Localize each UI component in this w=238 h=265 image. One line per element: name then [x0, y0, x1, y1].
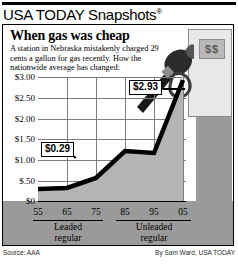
group-label-unleaded-line2: regular [136, 233, 172, 244]
masthead-rule [2, 2, 236, 5]
xtick-label-5: 05 [178, 207, 188, 217]
ytick-label-1: $2.50 [15, 93, 35, 103]
xtick-label-3: 85 [120, 207, 130, 217]
ytick-label-0: $3.00 [15, 72, 35, 82]
callout-low: $0.29 [41, 142, 74, 157]
price-line-series [38, 77, 186, 201]
xtick-label-0: 55 [33, 207, 43, 217]
chart-subtitle: A station in Nebraska mistakenly charged… [10, 44, 162, 73]
source-note: Source: AAA [3, 249, 40, 256]
chart-panel: $$ When gas was cheap A station in Nebra… [2, 24, 234, 246]
page-title: When gas was cheap [10, 28, 130, 44]
ytick-label-4: $1.00 [15, 155, 35, 165]
group-label-leaded-line1: Leaded [54, 222, 82, 233]
x-axis-labels: 55 65 75 85 95 05 [3, 207, 234, 219]
credit-note: By Sam Ward, USA TODAY [155, 249, 235, 256]
x-axis-baseline [38, 201, 186, 202]
ytick-label-5: $.50 [19, 176, 35, 186]
xtick-label-2: 75 [91, 207, 101, 217]
group-label-unleaded-line1: Unleaded [136, 222, 172, 233]
ytick-label-2: $2.00 [15, 114, 35, 124]
usa-today-snapshot: USA TODAY Snapshots® $$ When gas was che… [0, 0, 238, 265]
callout-high: $2.93 [129, 80, 162, 95]
pump-display: $$ [199, 39, 225, 59]
group-label-leaded: Leaded regular [54, 222, 82, 243]
ytick-label-3: $1.50 [15, 134, 35, 144]
xtick-label-1: 65 [62, 207, 72, 217]
plot-area: $3.00 $2.50 $2.00 $1.50 $1.00 $.50 $0 [38, 77, 186, 201]
pump-column [196, 117, 232, 221]
masthead-brand: USA TODAY Snapshots [3, 6, 156, 23]
group-label-unleaded: Unleaded regular [136, 222, 172, 243]
group-rule-leaded [33, 220, 103, 221]
registered-mark-icon: ® [156, 7, 162, 16]
ytick-label-6: $0 [26, 196, 35, 206]
group-label-leaded-line2: regular [54, 233, 82, 244]
masthead-title: USA TODAY Snapshots® [3, 6, 235, 23]
callout-high-leader [163, 88, 185, 90]
group-rule-unleaded [116, 220, 191, 221]
xtick-label-4: 95 [149, 207, 159, 217]
